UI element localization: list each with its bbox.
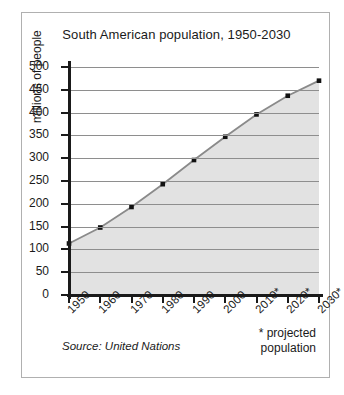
y-axis-tick-label: 100 xyxy=(29,241,49,255)
y-axis-tick-label: 200 xyxy=(29,196,49,210)
y-axis-tick: 150 xyxy=(61,226,69,228)
projection-note-line2: population xyxy=(206,341,316,356)
y-axis-tick-label: 450 xyxy=(29,82,49,96)
y-axis-tick: 50 xyxy=(61,271,69,273)
y-axis-tick-label: 350 xyxy=(29,127,49,141)
gridline xyxy=(69,113,319,114)
projection-note-line1: * projected xyxy=(206,326,316,341)
data-point-marker xyxy=(317,78,322,83)
gridline xyxy=(69,90,319,91)
source-note: Source: United Nations xyxy=(62,340,180,352)
y-axis-tick: 100 xyxy=(61,248,69,250)
data-point-marker xyxy=(285,93,290,98)
gridline xyxy=(69,158,319,159)
gridline xyxy=(69,272,319,273)
gridline xyxy=(69,204,319,205)
y-axis-tick-label: 250 xyxy=(29,173,49,187)
y-axis-tick-label: 500 xyxy=(29,59,49,73)
y-axis-tick-label: 300 xyxy=(29,150,49,164)
chart-frame: South American population, 1950-2030 mil… xyxy=(21,12,330,378)
plot-area: 050100150200250300350400450500 195019601… xyxy=(69,67,319,295)
y-axis-tick-label: 0 xyxy=(42,287,49,301)
y-axis-tick-label: 150 xyxy=(29,219,49,233)
y-axis-tick: 500 xyxy=(61,66,69,68)
y-axis-tick: 400 xyxy=(61,112,69,114)
y-axis-tick: 450 xyxy=(61,89,69,91)
y-axis-tick: 250 xyxy=(61,180,69,182)
gridline xyxy=(69,135,319,136)
gridline xyxy=(69,227,319,228)
data-point-marker xyxy=(160,182,165,187)
chart-title: South American population, 1950-2030 xyxy=(22,27,331,42)
gridline xyxy=(69,181,319,182)
data-point-marker xyxy=(129,205,134,210)
projection-note: * projected population xyxy=(206,326,316,356)
y-axis-tick: 200 xyxy=(61,203,69,205)
gridline xyxy=(69,249,319,250)
gridline xyxy=(69,67,319,68)
y-axis-tick: 300 xyxy=(61,157,69,159)
y-axis-tick-label: 50 xyxy=(36,264,49,278)
y-axis-tick: 350 xyxy=(61,134,69,136)
y-axis-tick-label: 400 xyxy=(29,105,49,119)
